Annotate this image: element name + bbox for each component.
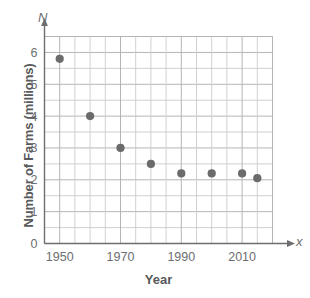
y-tick-label: 6 [31,46,38,60]
x-tick-label: 1990 [167,250,195,264]
y-tick-labels: 0123456 [31,46,38,251]
data-point [208,169,216,177]
plot-canvas: 0123456 1950197019902010 [0,0,310,298]
x-tick-label: 1950 [46,250,74,264]
data-point [56,55,64,63]
farms-scatter-chart: Number of Farms (millions) Year N x 0123… [0,0,310,298]
data-point [86,112,94,120]
minor-gridlines [45,37,273,228]
y-tick-label: 0 [31,237,38,251]
data-point [177,169,185,177]
major-gridlines [45,37,273,244]
data-point [147,160,155,168]
x-tick-labels: 1950197019902010 [46,250,256,264]
x-tick-label: 1970 [107,250,135,264]
x-tick-label: 2010 [228,250,256,264]
data-points [56,55,262,183]
y-tick-label: 5 [31,78,38,92]
data-point [238,169,246,177]
y-tick-label: 4 [31,110,38,124]
y-tick-label: 1 [31,205,38,219]
y-tick-label: 2 [31,173,38,187]
data-point [253,174,261,182]
data-point [116,144,124,152]
y-tick-label: 3 [31,141,38,155]
